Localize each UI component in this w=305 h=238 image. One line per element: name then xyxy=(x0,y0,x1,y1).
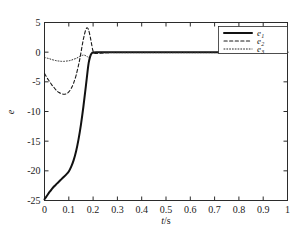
x-tick-label: 0.7 xyxy=(208,204,221,215)
y-axis-title: e xyxy=(5,109,16,114)
x-axis-title: t/s xyxy=(161,215,171,226)
chart-legend: e1e2e3 xyxy=(219,27,288,56)
x-tick-label: 0.1 xyxy=(63,204,76,215)
y-tick-label: -20 xyxy=(27,165,40,176)
x-tick-label: 0 xyxy=(42,204,47,215)
x-tick-label: 1 xyxy=(285,204,290,215)
x-tick-label: 0.5 xyxy=(160,204,173,215)
x-tick-label: 0.2 xyxy=(87,204,100,215)
y-tick-label: 5 xyxy=(36,17,41,28)
y-tick-label: -5 xyxy=(32,76,40,87)
x-tick-label: 0.8 xyxy=(233,204,246,215)
y-tick-label: -15 xyxy=(27,136,40,147)
x-tick-label: 0.3 xyxy=(111,204,124,215)
x-tick-label: 0.6 xyxy=(184,204,197,215)
svg-text:t/s: t/s xyxy=(161,215,171,226)
y-tick-label: 0 xyxy=(36,47,41,58)
legend-box xyxy=(219,27,288,54)
error-signals-line-chart: 00.10.20.30.40.50.60.70.80.91 50-5-10-15… xyxy=(0,0,305,238)
chart-figure: 00.10.20.30.40.50.60.70.80.91 50-5-10-15… xyxy=(0,0,305,238)
x-tick-label: 0.9 xyxy=(257,204,270,215)
svg-text:e: e xyxy=(5,109,16,114)
y-tick-label: -10 xyxy=(27,106,40,117)
x-tick-label: 0.4 xyxy=(135,204,148,215)
y-tick-label: -25 xyxy=(27,195,40,206)
